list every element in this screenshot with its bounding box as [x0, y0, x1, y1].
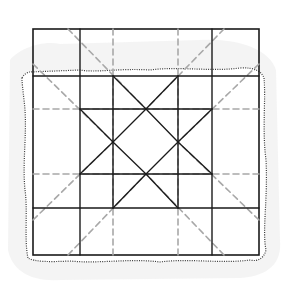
quilt-diagram — [0, 0, 283, 284]
paper-torn-edge — [22, 68, 266, 262]
